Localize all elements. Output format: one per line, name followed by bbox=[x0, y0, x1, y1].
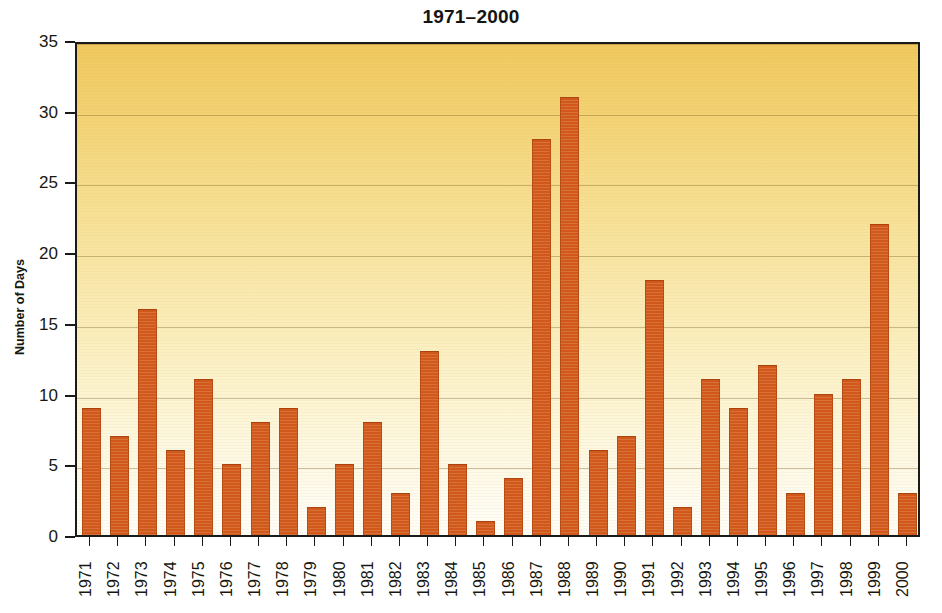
x-tick-mark bbox=[286, 537, 287, 546]
bar bbox=[307, 507, 326, 535]
x-tick-mark bbox=[906, 537, 907, 546]
x-axis: 1971197219731974197519761977197819791980… bbox=[75, 537, 920, 613]
bar bbox=[335, 464, 354, 535]
bar bbox=[166, 450, 185, 535]
x-tick-label: 1973 bbox=[133, 561, 151, 597]
x-tick-mark bbox=[737, 537, 738, 546]
x-tick-label: 1976 bbox=[218, 561, 236, 597]
x-tick-label: 1994 bbox=[725, 561, 743, 597]
bar bbox=[701, 379, 720, 535]
y-tick-mark bbox=[65, 536, 75, 538]
plot-area bbox=[75, 42, 920, 537]
bar bbox=[194, 379, 213, 535]
bar bbox=[420, 351, 439, 535]
bar bbox=[222, 464, 241, 535]
x-tick-label: 1978 bbox=[274, 561, 292, 597]
bar bbox=[391, 493, 410, 535]
bar bbox=[842, 379, 861, 535]
y-tick-label: 5 bbox=[49, 456, 58, 476]
bar bbox=[138, 309, 157, 535]
x-tick-mark bbox=[343, 537, 344, 546]
bar bbox=[82, 408, 101, 535]
x-tick-mark bbox=[483, 537, 484, 546]
bar bbox=[673, 507, 692, 535]
x-tick-mark bbox=[624, 537, 625, 546]
y-tick-label: 20 bbox=[39, 244, 58, 264]
y-tick-label: 15 bbox=[39, 315, 58, 335]
y-tick-mark bbox=[65, 465, 75, 467]
x-tick-mark bbox=[512, 537, 513, 546]
x-tick-mark bbox=[455, 537, 456, 546]
y-tick-label: 30 bbox=[39, 103, 58, 123]
bar bbox=[110, 436, 129, 535]
y-tick-mark bbox=[65, 324, 75, 326]
x-tick-mark bbox=[878, 537, 879, 546]
bar bbox=[729, 408, 748, 535]
y-tick-label: 25 bbox=[39, 173, 58, 193]
bar bbox=[560, 97, 579, 535]
x-tick-mark bbox=[399, 537, 400, 546]
x-tick-label: 1971 bbox=[77, 561, 95, 597]
x-tick-label: 1992 bbox=[669, 561, 687, 597]
y-tick-label: 0 bbox=[49, 527, 58, 547]
x-tick-label: 1996 bbox=[781, 561, 799, 597]
x-tick-label: 1974 bbox=[162, 561, 180, 597]
x-tick-label: 1998 bbox=[838, 561, 856, 597]
x-tick-mark bbox=[202, 537, 203, 546]
x-tick-mark bbox=[568, 537, 569, 546]
x-tick-label: 1999 bbox=[866, 561, 884, 597]
y-tick-mark bbox=[65, 253, 75, 255]
y-tick-label: 10 bbox=[39, 386, 58, 406]
chart-title: 1971–2000 bbox=[0, 6, 942, 28]
x-tick-mark bbox=[821, 537, 822, 546]
bar bbox=[758, 365, 777, 535]
x-tick-mark bbox=[709, 537, 710, 546]
x-tick-label: 1972 bbox=[105, 561, 123, 597]
bar bbox=[504, 478, 523, 535]
x-tick-mark bbox=[258, 537, 259, 546]
x-tick-label: 1993 bbox=[697, 561, 715, 597]
bar bbox=[617, 436, 636, 535]
x-tick-label: 1991 bbox=[640, 561, 658, 597]
x-tick-mark bbox=[117, 537, 118, 546]
x-tick-label: 1985 bbox=[471, 561, 489, 597]
x-tick-mark bbox=[314, 537, 315, 546]
x-tick-mark bbox=[89, 537, 90, 546]
bar bbox=[448, 464, 467, 535]
x-tick-mark bbox=[765, 537, 766, 546]
y-tick-mark bbox=[65, 395, 75, 397]
x-tick-mark bbox=[145, 537, 146, 546]
bars-layer bbox=[77, 44, 918, 535]
x-tick-label: 1982 bbox=[387, 561, 405, 597]
x-tick-label: 1987 bbox=[528, 561, 546, 597]
x-tick-label: 1975 bbox=[190, 561, 208, 597]
x-tick-mark bbox=[850, 537, 851, 546]
x-tick-mark bbox=[427, 537, 428, 546]
x-tick-label: 2000 bbox=[894, 561, 912, 597]
x-tick-mark bbox=[596, 537, 597, 546]
bar bbox=[476, 521, 495, 535]
bar bbox=[532, 139, 551, 535]
bar bbox=[870, 224, 889, 535]
x-tick-label: 1989 bbox=[584, 561, 602, 597]
x-tick-label: 1990 bbox=[612, 561, 630, 597]
y-tick-label: 35 bbox=[39, 32, 58, 52]
x-tick-mark bbox=[371, 537, 372, 546]
y-axis-title: Number of Days bbox=[13, 259, 27, 355]
bar bbox=[363, 422, 382, 535]
x-tick-label: 1981 bbox=[359, 561, 377, 597]
x-tick-label: 1988 bbox=[556, 561, 574, 597]
y-tick-mark bbox=[65, 41, 75, 43]
x-tick-label: 1984 bbox=[443, 561, 461, 597]
bar bbox=[279, 408, 298, 535]
x-tick-label: 1979 bbox=[302, 561, 320, 597]
x-tick-label: 1997 bbox=[809, 561, 827, 597]
x-tick-label: 1977 bbox=[246, 561, 264, 597]
x-tick-mark bbox=[540, 537, 541, 546]
x-tick-label: 1995 bbox=[753, 561, 771, 597]
y-tick-mark bbox=[65, 182, 75, 184]
x-tick-mark bbox=[174, 537, 175, 546]
x-tick-label: 1983 bbox=[415, 561, 433, 597]
x-tick-label: 1980 bbox=[331, 561, 349, 597]
x-tick-label: 1986 bbox=[500, 561, 518, 597]
